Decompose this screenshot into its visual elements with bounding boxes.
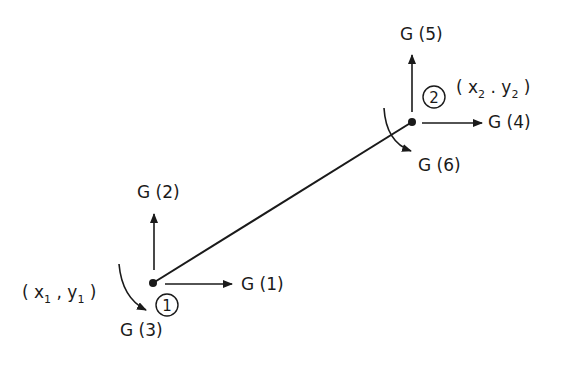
node-1-coords-label: ( x1 , y1 ) (22, 282, 96, 306)
node-2-dot (408, 118, 416, 126)
beam-element-diagram: 1 G (2) G (1) G (3) ( x1 , y1 ) 2 G (5) … (0, 0, 561, 370)
node-2-number: 2 (429, 89, 439, 107)
node-2-dof-rotation-label: G (6) (418, 155, 461, 175)
node-1-number: 1 (162, 297, 172, 315)
node-1-dof-y-label: G (2) (137, 182, 180, 202)
node-2-dof-y-label: G (5) (400, 24, 443, 44)
node-2-dof-x-label: G (4) (488, 112, 531, 132)
node-1-dof-x-label: G (1) (241, 274, 284, 294)
diagram-canvas: 1 G (2) G (1) G (3) ( x1 , y1 ) 2 G (5) … (0, 0, 561, 370)
node-1: 1 G (2) G (1) G (3) ( x1 , y1 ) (22, 182, 284, 340)
node-1-rotation-arrow (119, 264, 146, 310)
node-1-dof-rotation-label: G (3) (120, 320, 163, 340)
node-2-rotation-arrow (384, 108, 411, 151)
node-2-coords-label: ( x2 . y2 ) (456, 77, 530, 101)
node-1-dot (149, 279, 157, 287)
node-2: 2 G (5) G (4) G (6) ( x2 . y2 ) (384, 24, 531, 175)
beam-element-line (153, 122, 412, 283)
